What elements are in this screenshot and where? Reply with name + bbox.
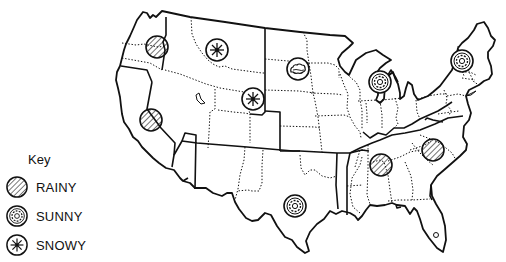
us-outline [116,11,495,253]
cloudy-icon [287,58,309,80]
snowy-icon [6,234,28,256]
sunny-icon [284,195,306,217]
rainy-icon [6,176,28,198]
key-title: Key [28,152,50,167]
lake-okeechobee [434,233,439,238]
rainy-icon [140,109,162,131]
key-label: SNOWY [36,238,86,253]
key-item-rainy: RAINY [6,176,77,198]
rainy-icon [422,139,444,161]
rainy-icon [370,154,392,176]
key-item-sunny: SUNNY [6,205,83,227]
key-label: SUNNY [36,209,83,224]
sunny-icon [451,50,473,72]
snowy-icon [206,39,228,61]
sunny-icon [369,71,391,93]
key-item-snowy: SNOWY [6,234,86,256]
rainy-icon [146,36,168,58]
key-label: RAINY [36,180,77,195]
sunny-icon [6,205,28,227]
snowy-icon [242,88,264,110]
